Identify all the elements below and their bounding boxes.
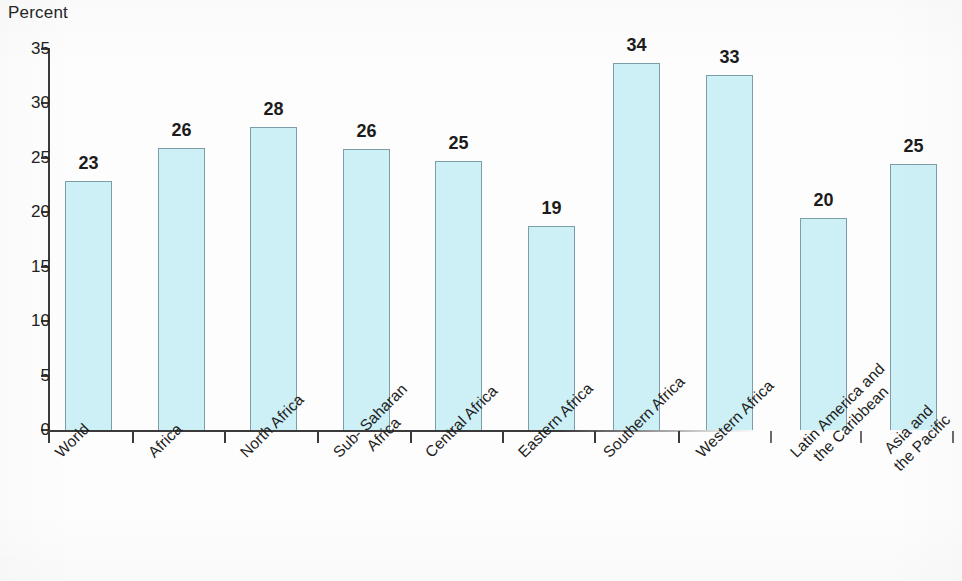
bar-value-label: 34 — [626, 35, 646, 56]
bar — [435, 161, 482, 430]
bar — [158, 148, 205, 430]
x-axis-tick-mark — [224, 431, 226, 443]
x-axis-tick-mark — [317, 431, 319, 443]
y-axis-tick-label: 5 — [16, 366, 50, 386]
y-axis-tick-label: 35 — [16, 39, 50, 59]
bar-value-label: 23 — [78, 153, 98, 174]
x-axis-tick-mark — [770, 431, 772, 443]
y-axis-tick-label: 0 — [16, 420, 50, 440]
x-axis-line — [48, 430, 760, 432]
x-axis-tick-mark — [952, 431, 954, 443]
y-axis-tick-label: 25 — [16, 148, 50, 168]
bar — [65, 181, 112, 430]
x-axis-tick-mark — [132, 431, 134, 443]
bar-chart: Percent 23262826251934332025 35302520151… — [0, 0, 962, 581]
bar — [706, 75, 753, 430]
bar-value-label: 19 — [541, 198, 561, 219]
x-axis-tick-mark — [48, 431, 50, 443]
bar — [613, 63, 660, 430]
x-axis-tick-mark — [860, 431, 862, 443]
bar-value-label: 28 — [263, 99, 283, 120]
bar-value-label: 26 — [171, 120, 191, 141]
y-axis-tick-label: 30 — [16, 93, 50, 113]
x-axis-tick-mark — [678, 431, 680, 443]
bar-value-label: 20 — [813, 190, 833, 211]
bar-value-label: 26 — [356, 121, 376, 142]
bar-value-label: 25 — [448, 133, 468, 154]
bar — [250, 127, 297, 430]
y-axis-tick-label: 10 — [16, 311, 50, 331]
x-axis-tick-mark — [594, 431, 596, 443]
y-axis-tick-label: 20 — [16, 202, 50, 222]
x-axis-tick-mark — [410, 431, 412, 443]
plot-area: 23262826251934332025 — [0, 0, 962, 581]
bar-value-label: 33 — [719, 47, 739, 68]
bar-value-label: 25 — [903, 136, 923, 157]
x-axis-tick-mark — [502, 431, 504, 443]
y-axis-tick-label: 15 — [16, 257, 50, 277]
bar — [343, 149, 390, 430]
